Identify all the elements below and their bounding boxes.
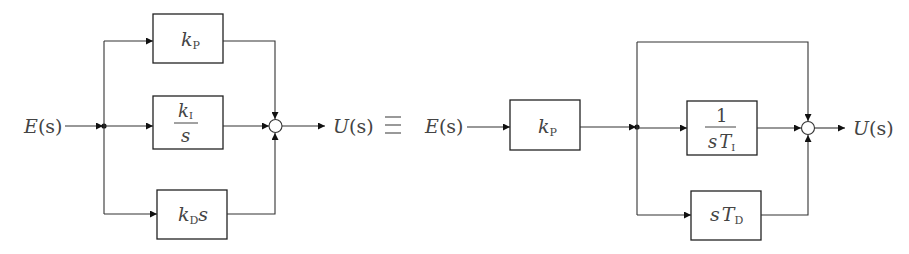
parallel-form-diagram: E(s) kP kI s	[23, 14, 374, 239]
wire-kp-to-sum	[223, 41, 275, 119]
standard-form-diagram: E(s) kP 1 sTI	[424, 42, 894, 240]
svg-text:1: 1	[716, 105, 727, 126]
svg-text:s: s	[181, 125, 190, 146]
block-kp: kP	[153, 14, 223, 63]
svg-text:sTI: sTI	[708, 131, 735, 153]
block-kp-right: kP	[510, 100, 580, 150]
equivalence-symbol	[385, 117, 401, 133]
left-input-label: E(s)	[23, 115, 62, 137]
right-input-label: E(s)	[424, 115, 463, 137]
block-std: sTD	[691, 191, 761, 240]
wire-kd-to-sum	[227, 133, 275, 214]
wire-td-to-sum	[761, 135, 808, 215]
pid-diagram: E(s) kP kI s	[0, 0, 909, 254]
left-summing-junction	[269, 120, 282, 133]
left-output-label: U(s)	[333, 115, 374, 137]
block-one-over-sti: 1 sTI	[687, 101, 757, 155]
block-ki-over-s: kI s	[153, 96, 223, 149]
right-summing-junction	[802, 122, 815, 135]
right-output-label: U(s)	[853, 117, 894, 139]
block-kd-s: kDs	[157, 190, 227, 239]
